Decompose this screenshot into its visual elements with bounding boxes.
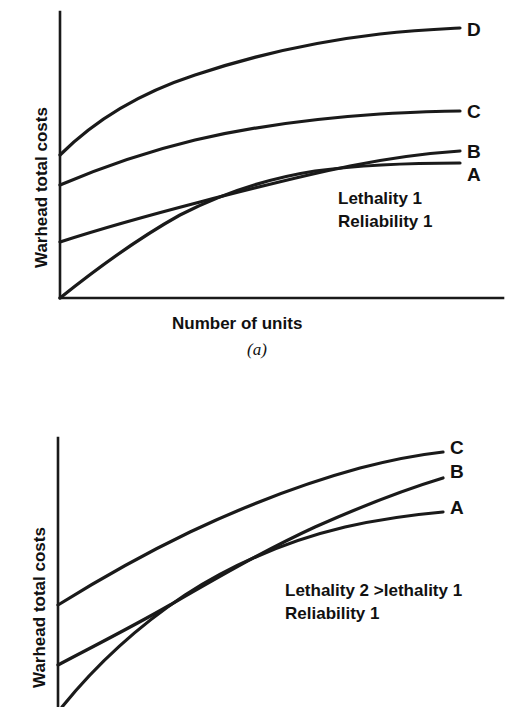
panel-a-label-c: C <box>467 102 481 121</box>
panel-a-y-axis-title: Warhead total costs <box>32 107 52 268</box>
panel-b-y-axis-title: Warhead total costs <box>30 527 50 688</box>
panel-a-x-axis-title: Number of units <box>172 314 302 334</box>
panel-b <box>0 360 529 707</box>
panel-b-label-a: A <box>450 498 464 517</box>
panel-b-label-c: C <box>450 438 464 457</box>
panel-a-label-b: B <box>467 142 481 161</box>
panel-b-annotation: Lethality 2 >lethality 1 Reliability 1 <box>285 580 462 626</box>
panel-a-caption: (a) <box>247 340 267 360</box>
figure-container: D C B A Lethality 1 Reliability 1 Warhea… <box>0 0 529 707</box>
panel-b-annotation-line-2: Reliability 1 <box>285 603 462 626</box>
panel-b-label-b: B <box>450 462 464 481</box>
panel-a: D C B A Lethality 1 Reliability 1 Warhea… <box>0 0 529 360</box>
panel-a-curve-d <box>60 28 460 155</box>
panel-a-plot-area <box>0 0 529 360</box>
panel-a-annotation: Lethality 1 Reliability 1 <box>338 188 432 234</box>
panel-b-plot-area <box>0 360 529 707</box>
panel-a-curve-c <box>60 111 460 185</box>
panel-a-label-a: A <box>467 165 481 184</box>
panel-b-annotation-line-1: Lethality 2 >lethality 1 <box>285 580 462 603</box>
panel-a-annotation-line-1: Lethality 1 <box>338 188 432 211</box>
panel-a-label-d: D <box>467 20 481 39</box>
panel-a-annotation-line-2: Reliability 1 <box>338 211 432 234</box>
